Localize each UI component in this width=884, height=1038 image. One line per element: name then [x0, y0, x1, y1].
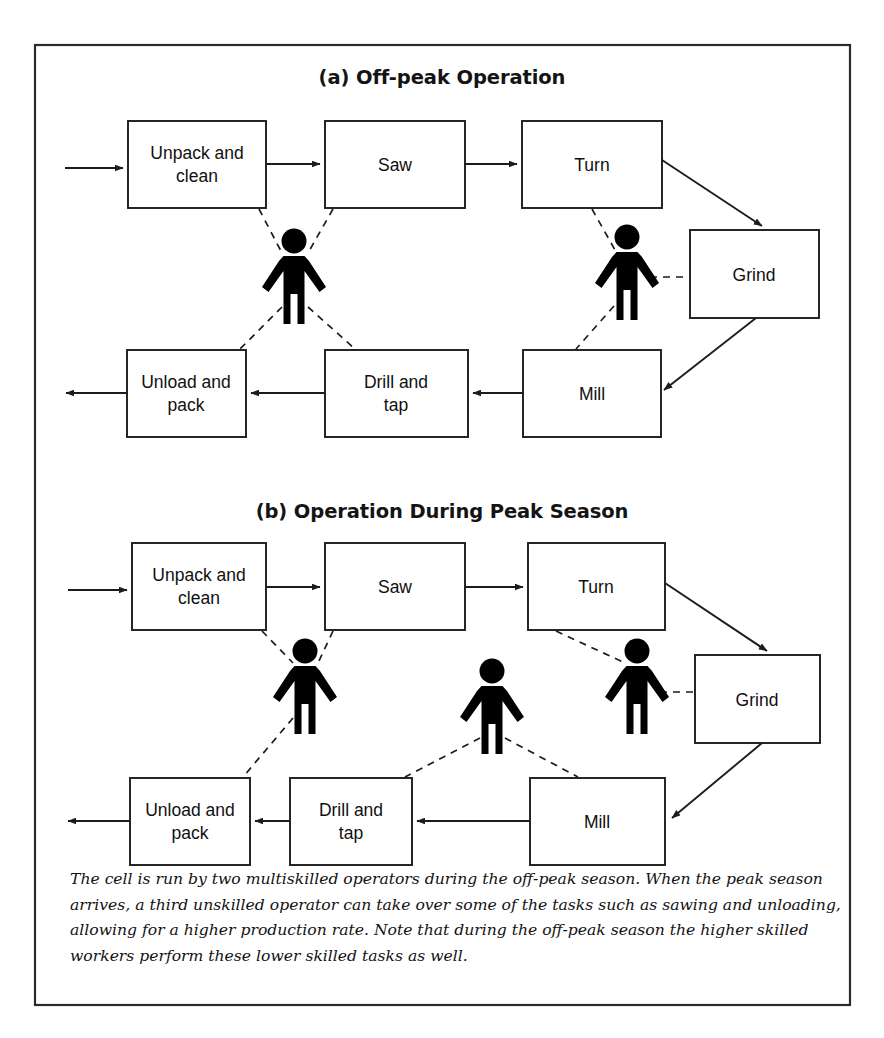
caption-line: The cell is run by two multiskilled oper… — [70, 870, 823, 888]
manufacturing-cell-diagram: (a) Off-peak Operation — [0, 0, 884, 1038]
box-label-line: Unpack and — [152, 565, 245, 585]
assign-a-op1-drill — [308, 307, 355, 349]
box-label-line: Grind — [736, 690, 779, 710]
process-box-drill-and-tap-b[interactable]: Drill and tap — [290, 778, 412, 865]
process-box-unpack-and-clean-a[interactable]: Unpack and clean — [128, 121, 266, 208]
assign-a-op1-unpack — [259, 209, 282, 253]
person-icon-body — [605, 666, 669, 734]
arrow-icon-b-grind-mill — [672, 743, 762, 818]
person-icon-body — [595, 252, 659, 320]
person-icon-body — [262, 256, 326, 324]
panel-a-title: (a) Off-peak Operation — [319, 66, 566, 89]
assign-b-op1-saw — [318, 631, 333, 663]
box-label-line: tap — [339, 823, 363, 843]
box-label-line: clean — [176, 166, 218, 186]
process-box-mill-b[interactable]: Mill — [530, 778, 665, 865]
person-icon-head — [480, 659, 505, 684]
person-icon-body — [460, 686, 524, 754]
operator-a-op2[interactable] — [595, 225, 659, 321]
process-box-turn-b[interactable]: Turn — [528, 543, 665, 630]
process-box-saw-a[interactable]: Saw — [325, 121, 465, 208]
caption-line: allowing for a higher production rate. N… — [70, 921, 809, 939]
person-icon-head — [625, 639, 650, 664]
box-label-line: Unpack and — [150, 143, 243, 163]
figure-root: (a) Off-peak Operation — [0, 0, 884, 1038]
process-box-turn-a[interactable]: Turn — [522, 121, 662, 208]
panel-a-boxes: Unpack and clean Saw Turn Grind Mi — [127, 121, 819, 437]
person-icon-body — [273, 666, 337, 734]
process-box-unload-and-pack-a[interactable]: Unload and pack — [127, 350, 246, 437]
person-icon-head — [282, 229, 307, 254]
process-box-saw-b[interactable]: Saw — [325, 543, 465, 630]
process-box-drill-and-tap-a[interactable]: Drill and tap — [325, 350, 468, 437]
assign-b-op1-unload — [243, 718, 293, 777]
figure-caption: The cell is run by two multiskilled oper… — [70, 870, 841, 965]
operator-b-op3[interactable] — [605, 639, 669, 735]
assign-b-op3-turn — [556, 631, 625, 663]
box-label-line: Unload and — [145, 800, 235, 820]
box-label-line: Turn — [574, 155, 609, 175]
box-label-line: Drill and — [364, 372, 428, 392]
box-label-line: Unload and — [141, 372, 231, 392]
assign-a-op1-unload — [240, 307, 282, 349]
box-label-line: Saw — [378, 577, 412, 597]
process-box-mill-a[interactable]: Mill — [523, 350, 661, 437]
assign-a-op2-turn — [592, 209, 615, 250]
box-label-line: clean — [178, 588, 220, 608]
box-label-line: Mill — [584, 812, 610, 832]
assign-a-op1-saw — [308, 209, 333, 253]
caption-line: arrives, a third unskilled operator can … — [70, 896, 841, 914]
box-label-line: Saw — [378, 155, 412, 175]
person-icon-head — [293, 639, 318, 664]
box-label-line: Mill — [579, 384, 605, 404]
box-label-line: pack — [168, 395, 205, 415]
arrow-icon-b-turn-grind — [665, 583, 767, 651]
box-label-line: Drill and — [319, 800, 383, 820]
caption-line: workers perform these lower skilled task… — [70, 947, 468, 965]
person-icon-head — [615, 225, 640, 250]
panel-peak-season: (b) Operation During Peak Season — [68, 500, 820, 865]
assign-b-op2-mill — [505, 738, 578, 777]
assign-b-op1-unpack — [262, 631, 293, 663]
process-box-grind-b[interactable]: Grind — [695, 655, 820, 743]
box-label-line: Grind — [733, 265, 776, 285]
operator-a-op1[interactable] — [262, 229, 326, 325]
arrow-icon-a-turn-grind — [662, 160, 762, 226]
panel-off-peak: (a) Off-peak Operation — [65, 66, 819, 437]
box-label-line: pack — [172, 823, 209, 843]
arrow-icon-a-grind-mill — [664, 318, 756, 390]
assign-a-op2-mill — [576, 306, 614, 349]
process-box-unpack-and-clean-b[interactable]: Unpack and clean — [132, 543, 266, 630]
operator-b-op2[interactable] — [460, 659, 524, 755]
process-box-grind-a[interactable]: Grind — [690, 230, 819, 318]
box-label-line: Turn — [578, 577, 613, 597]
box-label-line: tap — [384, 395, 408, 415]
process-box-unload-and-pack-b[interactable]: Unload and pack — [130, 778, 250, 865]
assign-b-op2-drill — [405, 738, 480, 777]
panel-b-title: (b) Operation During Peak Season — [256, 500, 629, 523]
